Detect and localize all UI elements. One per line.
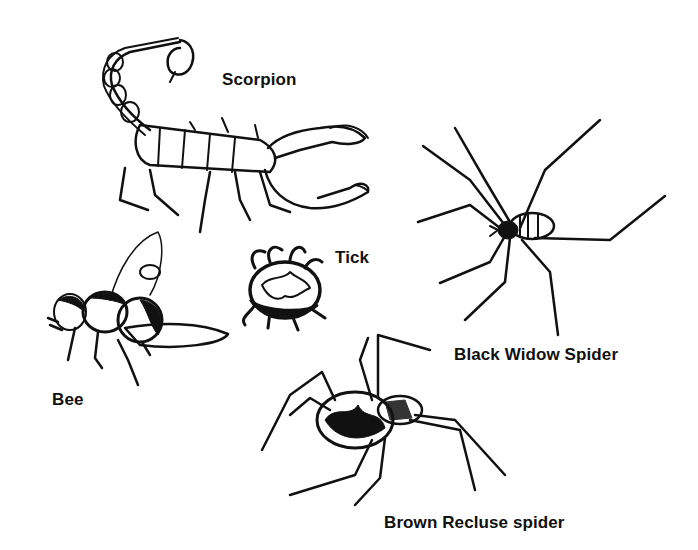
scorpion-label: Scorpion bbox=[222, 70, 296, 90]
tick-label: Tick bbox=[335, 248, 369, 268]
bee-drawing bbox=[48, 232, 228, 385]
brown-recluse-label: Brown Recluse spider bbox=[384, 513, 565, 533]
scorpion-drawing bbox=[103, 38, 368, 232]
venomous-creatures-illustration: Scorpion Tick Bee Black Widow Spider Bro… bbox=[0, 0, 698, 550]
black-widow-drawing bbox=[418, 120, 665, 335]
tick-drawing bbox=[243, 247, 325, 330]
bee-label: Bee bbox=[52, 390, 84, 410]
black-widow-label: Black Widow Spider bbox=[454, 345, 618, 365]
